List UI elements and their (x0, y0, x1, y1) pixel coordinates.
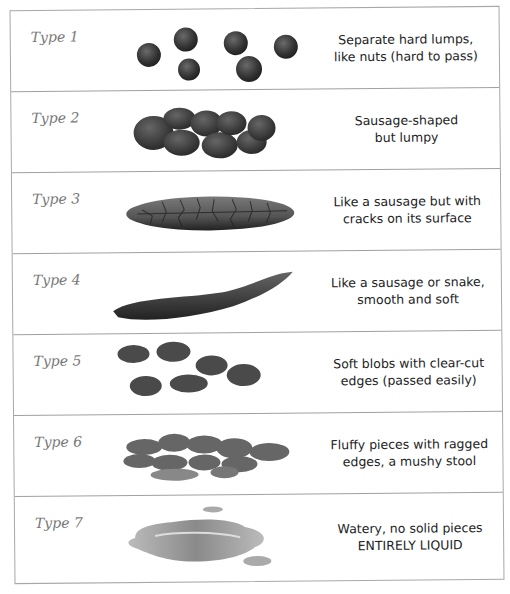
row-description: Fluffy pieces with ragged edges, a mushy… (314, 412, 505, 494)
lumpy-sausage-icon (91, 90, 312, 173)
row-description: Soft blobs with clear-cut edges (passed … (313, 331, 504, 413)
type-label: Type 3 (32, 191, 80, 207)
chart-row-type-7: Type 7 Watery, no solid pieces ENTIRELY … (15, 493, 504, 582)
separate-hard-lumps-icon (91, 9, 312, 92)
row-description: Like a sausage but with cracks on its su… (312, 169, 503, 251)
chart-row-type-3: Type 3 Like a sausage but with (12, 169, 501, 254)
chart-row-type-1: Type 1 Separate hard lumps, like nuts (h… (11, 7, 500, 92)
smooth-snake-icon (93, 252, 314, 335)
fluffy-pieces-icon (94, 414, 315, 497)
type-label: Type 2 (31, 110, 79, 126)
type-label: Type 5 (33, 353, 81, 369)
watery-puddle-icon (95, 495, 316, 578)
row-description: Like a sausage or snake, smooth and soft (313, 250, 504, 332)
chart-row-type-2: Type 2 Sausage-shaped but lumpy (11, 88, 500, 173)
soft-blobs-icon (93, 333, 314, 416)
stool-chart-table: Type 1 Separate hard lumps, like nuts (h… (10, 6, 505, 584)
type-label: Type 4 (33, 272, 81, 288)
chart-row-type-5: Type 5 Soft blobs with clear-cut edges (… (13, 331, 502, 416)
row-description: Sausage-shaped but lumpy (311, 88, 502, 170)
chart-row-type-4: Type 4 Like a sausage or snake, smooth a… (13, 250, 502, 335)
type-label: Type 7 (35, 515, 83, 531)
row-description: Separate hard lumps, like nuts (hard to … (311, 7, 502, 89)
cracked-sausage-icon (92, 171, 313, 254)
type-label: Type 1 (31, 29, 79, 45)
type-label: Type 6 (34, 434, 82, 450)
chart-row-type-6: Type 6 Fluffy pieces with ragged edges, … (14, 412, 503, 497)
row-description: Watery, no solid pieces ENTIRELY LIQUID (315, 493, 506, 580)
